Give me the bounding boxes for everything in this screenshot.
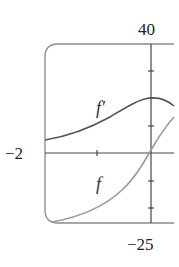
y-max-label: 40 [138,20,155,39]
series-fprime-curve [45,98,174,140]
series-f-curve [52,117,174,222]
f-label: f [96,174,104,194]
chart: 40 −2 −25 f′ f [0,0,179,267]
y-min-label: −25 [127,235,154,254]
x-min-label: −2 [5,144,23,163]
fprime-label: f′ [96,98,106,118]
chart-svg: 40 −2 −25 f′ f [0,0,179,267]
plot-frame [45,44,174,223]
